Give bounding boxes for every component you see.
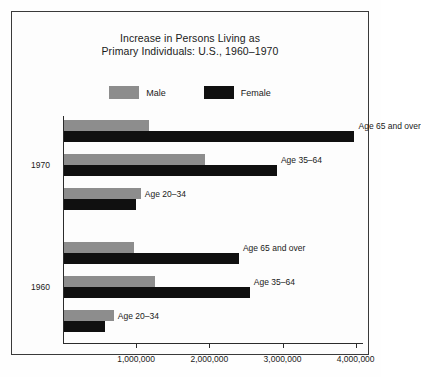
chart-frame: Increase in Persons Living as Primary In… xyxy=(11,11,369,355)
x-axis-line xyxy=(63,343,363,344)
x-tick-2 xyxy=(209,344,210,348)
bar-group-annotation: Age 20–34 xyxy=(118,311,159,321)
bar-male xyxy=(64,276,155,287)
bar-male xyxy=(64,310,114,321)
bar-group-annotation: Age 65 and over xyxy=(358,121,420,131)
legend-label-female: Female xyxy=(241,88,271,98)
chart-title-line-2: Primary Individuals: U.S., 1960–1970 xyxy=(12,45,368,58)
x-tick-label-2: 2,000,000 xyxy=(190,354,228,364)
legend-entry-female: Female xyxy=(204,86,271,99)
bar-female xyxy=(64,165,277,176)
x-tick-4 xyxy=(356,344,357,348)
plot-area: 1,000,0002,000,0003,000,0004,000,000 Age… xyxy=(63,116,363,344)
x-tick-1 xyxy=(136,344,137,348)
year-label-1970: 1970 xyxy=(31,160,50,170)
chart-title-line-1: Increase in Persons Living as xyxy=(12,32,368,45)
x-tick-label-3: 3,000,000 xyxy=(264,354,302,364)
bar-female xyxy=(64,199,136,210)
bar-female xyxy=(64,253,239,264)
legend-entry-male: Male xyxy=(109,86,166,99)
chart-title: Increase in Persons Living as Primary In… xyxy=(12,32,368,58)
legend-label-male: Male xyxy=(146,88,166,98)
bar-female xyxy=(64,287,250,298)
bar-male xyxy=(64,154,205,165)
bar-male xyxy=(64,188,141,199)
bar-group-annotation: Age 35–64 xyxy=(281,155,322,165)
bar-group-annotation: Age 65 and over xyxy=(243,243,305,253)
x-tick-3 xyxy=(283,344,284,348)
bar-group-annotation: Age 35–64 xyxy=(254,277,295,287)
x-tick-label-1: 1,000,000 xyxy=(117,354,155,364)
bar-female xyxy=(64,131,354,142)
legend-swatch-male xyxy=(109,86,139,99)
year-label-1960: 1960 xyxy=(31,282,50,292)
bar-male xyxy=(64,242,134,253)
chart-legend: Male Female xyxy=(12,86,368,99)
bar-female xyxy=(64,321,105,332)
x-tick-label-4: 4,000,000 xyxy=(337,354,375,364)
bar-group-annotation: Age 20–34 xyxy=(145,189,186,199)
legend-swatch-female xyxy=(204,86,234,99)
bar-male xyxy=(64,120,149,131)
